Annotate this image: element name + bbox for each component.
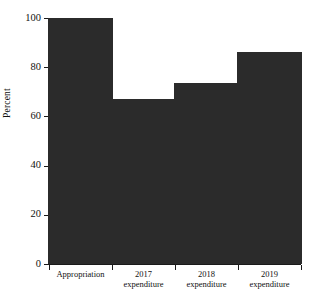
y-tick-label: 20 bbox=[0, 209, 41, 220]
x-tick-label: 2018 expenditure bbox=[175, 270, 238, 290]
plot-area bbox=[49, 18, 301, 264]
bar bbox=[111, 99, 176, 264]
y-tick-label: 40 bbox=[0, 160, 41, 171]
y-tick-label: 80 bbox=[0, 62, 41, 73]
x-tick-label: Appropriation bbox=[49, 270, 112, 280]
x-tick-label: 2017 expenditure bbox=[112, 270, 175, 290]
bar bbox=[237, 52, 302, 264]
bar-chart: Percent 020406080100 Appropriation2017 e… bbox=[0, 0, 322, 294]
y-tick-label: 60 bbox=[0, 111, 41, 122]
y-tick-label: 100 bbox=[0, 13, 41, 24]
y-tick-label: 0 bbox=[0, 259, 41, 270]
x-tick-mark bbox=[301, 265, 302, 270]
x-tick-label: 2019 expenditure bbox=[238, 270, 301, 290]
bar bbox=[174, 83, 239, 264]
bar bbox=[48, 18, 113, 264]
